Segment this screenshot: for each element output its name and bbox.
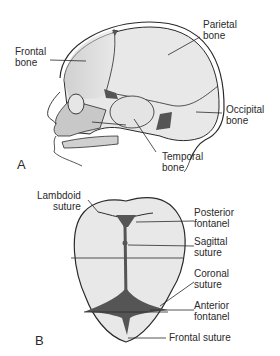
label-frontal-suture: Frontal suture (169, 332, 231, 343)
panel-letter-b: B (35, 333, 44, 348)
label-coronal-suture: Coronal suture (194, 268, 229, 290)
panel-letter-a: A (17, 157, 26, 172)
label-occipital-bone: Occipital bone (226, 104, 264, 126)
label-frontal-bone: Frontal bone (15, 46, 46, 68)
label-anterior-fontanel: Anterior fontanel (194, 300, 230, 322)
label-sagittal-suture: Sagittal suture (194, 236, 227, 258)
superior-skull-view (71, 198, 194, 342)
label-temporal-bone: Temporal bone (162, 151, 203, 173)
label-lambdoid-suture: Lambdoid suture (37, 190, 81, 212)
label-parietal-bone: Parietal bone (203, 19, 237, 41)
lateral-skull-view (48, 22, 224, 172)
label-posterior-fontanel: Posterior fontanel (194, 207, 234, 229)
